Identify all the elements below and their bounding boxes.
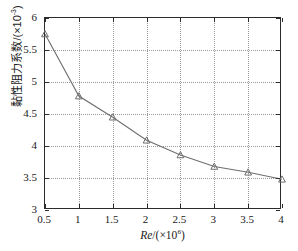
x-axis-symbol: Re bbox=[140, 229, 152, 241]
data-series-line bbox=[45, 18, 282, 210]
x-axis-tick bbox=[214, 204, 215, 208]
x-axis-tick-top bbox=[79, 18, 80, 22]
y-axis-tick-right bbox=[276, 82, 280, 83]
data-point-marker bbox=[42, 31, 49, 37]
x-axis-tick-top bbox=[282, 18, 283, 22]
series-polyline bbox=[45, 34, 282, 179]
x-axis-tick-label: 1.5 bbox=[105, 213, 119, 225]
x-axis-tick bbox=[282, 204, 283, 208]
x-axis-title: Re/(×106) bbox=[44, 229, 281, 241]
y-axis-tick bbox=[45, 114, 49, 115]
x-axis-tick bbox=[45, 204, 46, 208]
y-axis-tick bbox=[45, 146, 49, 147]
x-axis-tick-top bbox=[180, 18, 181, 22]
x-axis-tick-top bbox=[248, 18, 249, 22]
x-axis-tick-label: 3 bbox=[211, 213, 217, 225]
y-axis-tick-right bbox=[276, 146, 280, 147]
x-axis-tick-label: 2 bbox=[143, 213, 149, 225]
x-axis-tick bbox=[248, 204, 249, 208]
y-axis-tick-label: 3.5 bbox=[0, 171, 37, 183]
x-axis-tick bbox=[180, 204, 181, 208]
x-axis-tick bbox=[113, 204, 114, 208]
x-axis-tick-label: 1 bbox=[75, 213, 81, 225]
x-axis-tick bbox=[147, 204, 148, 208]
y-axis-tick-right bbox=[276, 178, 280, 179]
x-axis-tick-label: 2.5 bbox=[173, 213, 187, 225]
x-axis-tick-top bbox=[214, 18, 215, 22]
x-axis-tick-label: 0.5 bbox=[37, 213, 51, 225]
plot-area bbox=[44, 17, 281, 209]
chart-figure: 0.511.522.533.54 33.544.555.56 Re/(×106)… bbox=[0, 0, 298, 251]
x-axis-unit-suffix: ) bbox=[181, 229, 185, 241]
y-axis-tick-right bbox=[276, 114, 280, 115]
y-axis-tick-right bbox=[276, 18, 280, 19]
x-axis-tick bbox=[79, 204, 80, 208]
y-axis-unit-exponent: -3 bbox=[10, 9, 17, 15]
y-axis-tick bbox=[45, 210, 49, 211]
y-axis-tick-right bbox=[276, 50, 280, 51]
y-axis-title: 黏性阻力系数/(×10-3) bbox=[8, 0, 24, 126]
y-axis-unit-suffix: ) bbox=[11, 5, 23, 9]
y-axis-title-text: 黏性阻力系数/(×10 bbox=[11, 15, 23, 106]
y-axis-tick-right bbox=[276, 210, 280, 211]
x-axis-tick-top bbox=[113, 18, 114, 22]
x-axis-tick-top bbox=[147, 18, 148, 22]
x-axis-tick-label: 3.5 bbox=[240, 213, 254, 225]
y-axis-tick bbox=[45, 178, 49, 179]
y-axis-tick-label: 4 bbox=[0, 139, 37, 151]
x-axis-tick-label: 4 bbox=[278, 213, 284, 225]
y-axis-tick bbox=[45, 82, 49, 83]
x-axis-unit-prefix: /(×10 bbox=[152, 229, 177, 241]
y-axis-tick bbox=[45, 18, 49, 19]
y-axis-tick bbox=[45, 50, 49, 51]
y-axis-tick-label: 3 bbox=[0, 203, 37, 215]
